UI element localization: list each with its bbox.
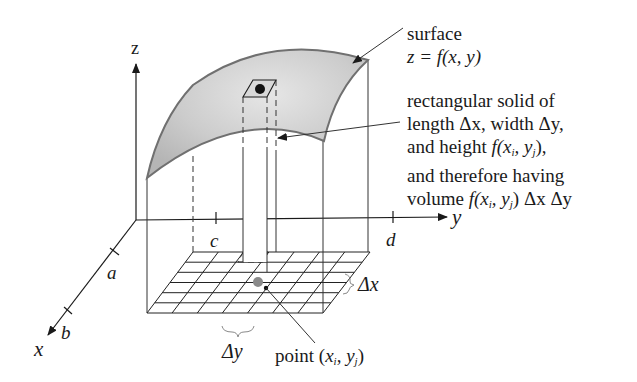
- solid-line4: and therefore having: [407, 164, 572, 187]
- delta-y-brace: [222, 326, 254, 337]
- solid-line5: volume f(xi, yj) Δx Δy: [407, 187, 572, 216]
- z-axis-label: z: [131, 38, 139, 58]
- solid-description: rectangular solid of length Δx, width Δy…: [407, 89, 572, 216]
- surface-label: surface z = f(x, y): [407, 22, 481, 68]
- solid-line1: rectangular solid of: [407, 89, 572, 112]
- solid-line3: and height f(xi, yj),: [407, 135, 572, 164]
- delta-x-label: Δx: [357, 273, 379, 295]
- solid-line2: length Δx, width Δy,: [407, 112, 572, 135]
- delta-y-label: Δy: [221, 340, 243, 363]
- surface-label-line1: surface: [407, 22, 481, 45]
- tick-label-a: a: [107, 262, 117, 283]
- tick-label-c: c: [210, 230, 219, 251]
- tick-label-b: b: [61, 322, 71, 343]
- point-label: point (xi, yj): [275, 344, 364, 373]
- top-point-marker: [255, 84, 265, 94]
- projected-point-marker: [253, 277, 263, 287]
- delta-x-brace: [343, 274, 354, 294]
- x-axis-label: x: [33, 337, 44, 361]
- surface-label-line2: z = f(x, y): [407, 45, 481, 68]
- tick-label-d: d: [386, 229, 396, 250]
- surface-leader-arrow: [353, 28, 403, 63]
- x-axis: [48, 220, 136, 335]
- y-axis: [136, 217, 447, 220]
- point-leader-line: [266, 288, 315, 343]
